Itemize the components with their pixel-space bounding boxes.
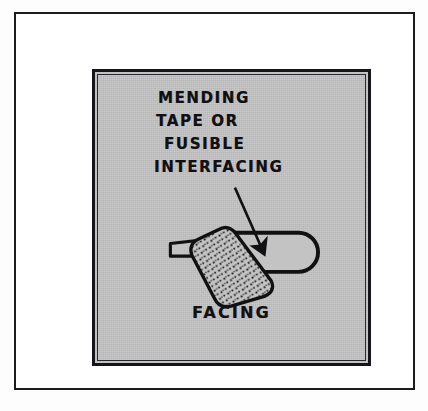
illustration-panel: MENDING TAPE OR FUSIBLE INTERFACING bbox=[97, 74, 366, 361]
outer-frame: MENDING TAPE OR FUSIBLE INTERFACING bbox=[14, 12, 415, 390]
illustration-page: MENDING TAPE OR FUSIBLE INTERFACING bbox=[0, 0, 428, 411]
illustration-panel-border: MENDING TAPE OR FUSIBLE INTERFACING bbox=[92, 69, 371, 366]
facing-label: FACING bbox=[98, 303, 365, 322]
